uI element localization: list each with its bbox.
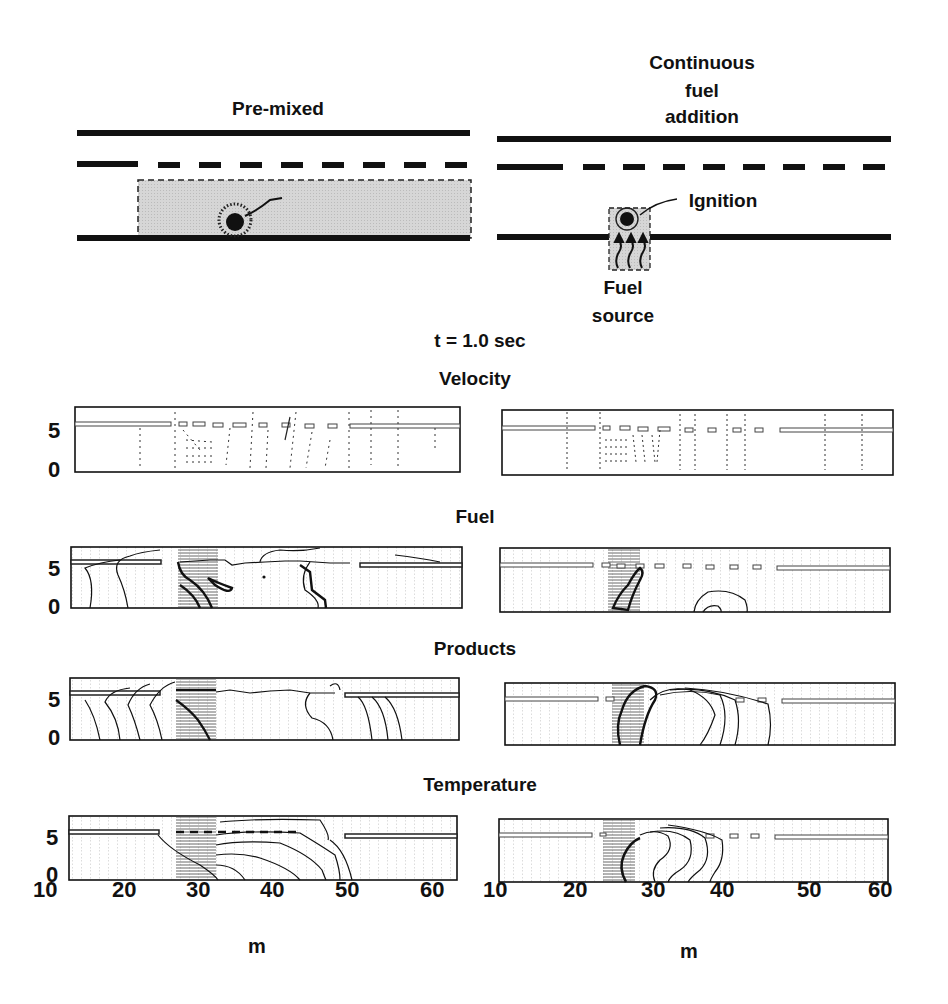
velocity-panel-left (75, 407, 460, 472)
temperature-panel-right (499, 819, 888, 882)
products-panel-left (70, 678, 459, 740)
products-panel-right (505, 683, 895, 745)
figure-graphics (0, 0, 948, 1004)
temperature-panel-left (69, 816, 457, 880)
fuel-panel-right (500, 548, 890, 612)
continuous-schematic (497, 139, 891, 270)
premixed-schematic (77, 133, 471, 238)
velocity-panel-right (502, 410, 893, 475)
fuel-panel-left (71, 547, 462, 608)
